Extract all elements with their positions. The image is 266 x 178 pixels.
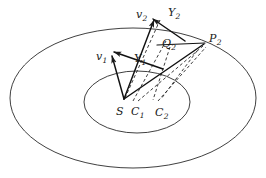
label-S: S <box>116 106 124 117</box>
label-C2: C2 <box>155 107 168 118</box>
diagram-canvas <box>0 0 266 178</box>
geometry-figure: v2 Y2 P2 Q2 v1 Y1 S C1 C2 <box>0 0 266 178</box>
label-P2: P2 <box>209 33 221 44</box>
label-C1: C1 <box>131 106 144 117</box>
label-Q2: Q2 <box>162 38 176 49</box>
label-Y1: Y1 <box>134 53 146 64</box>
label-v1: v1 <box>96 51 107 62</box>
label-v2: v2 <box>136 9 147 20</box>
label-Y2: Y2 <box>168 7 180 18</box>
outer-ellipse <box>10 28 256 168</box>
